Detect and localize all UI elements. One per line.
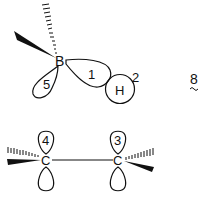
boron-wedge-bond <box>14 31 56 58</box>
orbital-label-3: 3 <box>114 133 121 148</box>
right-carbon-hashed-bond <box>126 148 153 160</box>
atom-carbon-right: C <box>113 153 122 168</box>
orbital-label-1: 1 <box>88 67 95 82</box>
orbital-lobe-left-lower <box>38 167 53 191</box>
left-carbon-wedge-bond <box>7 159 41 165</box>
atom-hydrogen: H <box>115 83 124 98</box>
left-carbon-hashed-bond <box>8 147 38 157</box>
compound-number-underline <box>190 88 198 91</box>
orbital-lobe-right-lower <box>110 167 125 191</box>
orbital-label-5: 5 <box>43 77 50 92</box>
orbital-diagram: B 5 1 H 2 8 C C <box>0 0 208 202</box>
right-carbon-wedge-bond <box>124 161 154 172</box>
orbital-label-2: 2 <box>132 70 139 85</box>
compound-number: 8 <box>190 71 198 87</box>
atom-carbon-left: C <box>41 153 50 168</box>
orbital-label-4: 4 <box>42 133 49 148</box>
boron-hashed-bond <box>42 4 57 53</box>
